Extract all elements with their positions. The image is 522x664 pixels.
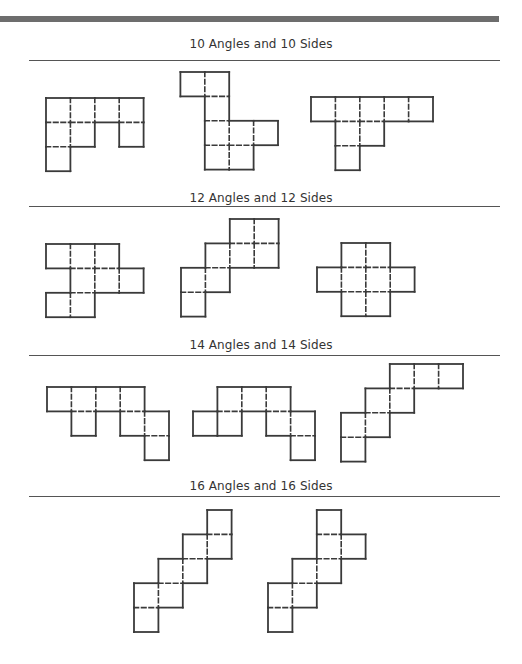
- net-10-a: [46, 98, 144, 171]
- net-12-a: [46, 244, 144, 317]
- net-14-c: [341, 364, 463, 462]
- net-16-b: [268, 510, 366, 632]
- net-14-a: [47, 387, 169, 460]
- net-10-b: [180, 72, 278, 170]
- net-10-c: [311, 97, 433, 170]
- net-16-a: [134, 510, 232, 632]
- net-12-c: [317, 243, 415, 316]
- nets-canvas: [0, 0, 522, 664]
- net-14-b: [193, 387, 315, 460]
- net-12-b: [181, 219, 279, 317]
